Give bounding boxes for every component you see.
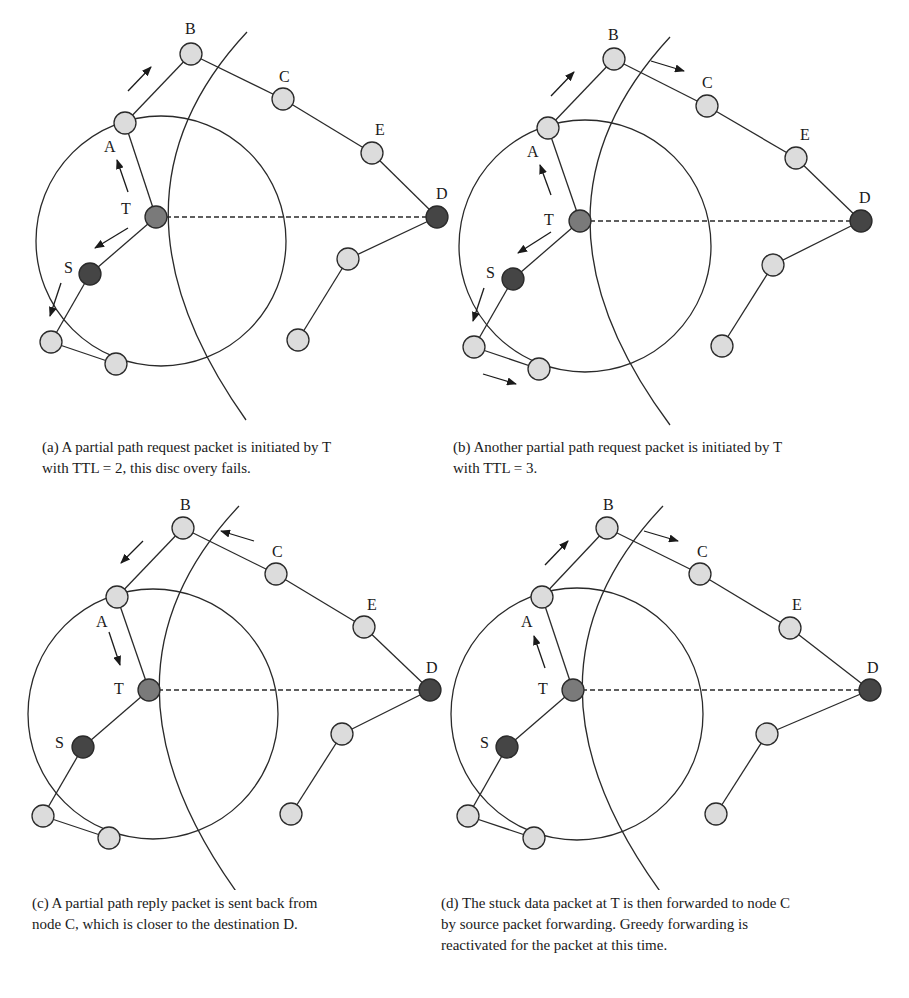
node-extra (287, 329, 309, 351)
boundary-arc (590, 37, 670, 425)
label-e: E (792, 596, 802, 613)
arrow-icon (540, 165, 551, 195)
node-t (569, 210, 591, 232)
network-diagram-a: B C E D A T S (0, 0, 450, 430)
label-a: A (527, 143, 539, 160)
node-s (72, 736, 94, 758)
node-extra (463, 336, 485, 358)
node-a (531, 586, 553, 608)
node-extra (32, 805, 54, 827)
node-extra (457, 805, 479, 827)
caption-line: by source packet forwarding. Greedy forw… (441, 914, 901, 935)
node-extra (280, 803, 302, 825)
label-s: S (486, 264, 495, 281)
label-t: T (114, 680, 124, 697)
network-diagram-d: B C E D A T S (450, 470, 909, 890)
arrow-icon (109, 632, 120, 665)
caption-c: (c) A partial path reply packet is sent … (32, 893, 442, 935)
label-c: C (697, 543, 708, 560)
node-extra (105, 353, 127, 375)
node-extra (711, 335, 733, 357)
caption-d: (d) The stuck data packet at T is then f… (441, 893, 901, 956)
node-s (502, 268, 524, 290)
node-extra (528, 358, 550, 380)
arrow-icon (534, 636, 545, 668)
caption-line: (a) A partial path request packet is ini… (42, 437, 442, 458)
label-c: C (272, 543, 283, 560)
label-d: D (867, 659, 879, 676)
panel-c: B C E D A T S (c) A partial path reply p… (0, 470, 450, 960)
node-c (689, 563, 711, 585)
node-extra (523, 827, 545, 849)
node-extra (331, 723, 353, 745)
node-s (496, 736, 518, 758)
label-t: T (121, 200, 131, 217)
label-b: B (603, 496, 614, 513)
node-t (138, 679, 160, 701)
packet-arrows (109, 531, 254, 665)
node-a (537, 117, 559, 139)
transmission-range-circle (28, 589, 278, 839)
label-a: A (104, 138, 116, 155)
label-c: C (702, 74, 713, 91)
label-b: B (185, 20, 196, 37)
label-d: D (859, 189, 871, 206)
node-a (106, 586, 128, 608)
label-a: A (521, 613, 533, 630)
arrow-icon (483, 374, 516, 384)
node-extra (705, 803, 727, 825)
label-b: B (180, 496, 191, 513)
arrow-icon (473, 288, 484, 321)
arrow-icon (117, 160, 128, 192)
node-d (419, 679, 441, 701)
links (474, 59, 861, 369)
label-d: D (436, 185, 448, 202)
panel-d: B C E D A T S (d) The stuck data packet … (450, 470, 909, 960)
panel-a: B C E D A T S (a) A partial path request… (0, 0, 450, 490)
label-e: E (367, 596, 377, 613)
label-t: T (544, 211, 554, 228)
caption-line: (c) A partial path reply packet is sent … (32, 893, 442, 914)
node-t (562, 679, 584, 701)
label-d: D (426, 659, 438, 676)
node-e (361, 142, 383, 164)
node-e (779, 617, 801, 639)
arrow-icon (50, 283, 61, 316)
caption-line: (b) Another partial path request packet … (453, 437, 893, 458)
caption-line: node C, which is closer to the destinati… (32, 914, 442, 935)
node-d (850, 210, 872, 232)
network-diagram-c: B C E D A T S (0, 470, 450, 890)
node-extra (337, 248, 359, 270)
arrow-icon (651, 61, 684, 71)
transmission-range-circle (459, 120, 711, 372)
caption-line: reactivated for the packet at this time. (441, 935, 901, 956)
node-s (79, 263, 101, 285)
panel-b: B C E D A T S (b) Another partial path r… (450, 0, 900, 490)
label-e: E (375, 121, 385, 138)
network-diagram-b: B C E D A T S (450, 0, 909, 430)
packet-arrows (534, 531, 678, 668)
label-t: T (538, 680, 548, 697)
node-d (426, 206, 448, 228)
label-e: E (800, 126, 810, 143)
label-s: S (55, 734, 64, 751)
transmission-range-circle (451, 588, 703, 840)
links (43, 528, 430, 838)
node-extra (98, 827, 120, 849)
node-b (172, 517, 194, 539)
transmission-range-circle (36, 116, 286, 366)
node-b (596, 517, 618, 539)
arrow-icon (221, 531, 254, 541)
node-b (180, 43, 202, 65)
boundary-arc (582, 506, 663, 890)
node-c (265, 563, 287, 585)
node-c (696, 95, 718, 117)
label-c: C (279, 68, 290, 85)
arrow-icon (121, 541, 143, 563)
arrow-icon (551, 72, 574, 96)
node-c (272, 88, 294, 110)
boundary-arc (159, 506, 239, 890)
label-b: B (608, 26, 619, 43)
node-d (859, 679, 881, 701)
arrow-icon (545, 541, 568, 565)
